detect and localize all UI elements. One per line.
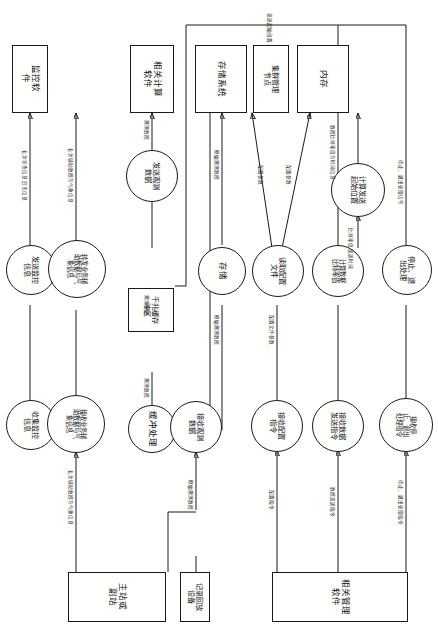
node-label: 相关管理 软件	[330, 579, 350, 615]
process-receive-send-command[interactable]: 接收数据 发送指令	[312, 400, 364, 452]
process-receive-config-command[interactable]: 接收配置 指令	[251, 400, 303, 452]
edge-label-raw-observation-3: 原始观测数据	[188, 480, 193, 510]
edge-label-stop-signal: 停止、退出处理信号	[398, 160, 403, 205]
external-box-monitor-software[interactable]: 监控软件	[12, 45, 48, 113]
node-label: 相关计算 软件	[142, 61, 162, 97]
process-stop-exit[interactable]: 停止、退 出处理	[382, 245, 432, 295]
process-buffer-handling[interactable]: 缓冲处理	[128, 405, 176, 453]
node-label: 主站或 副站	[107, 584, 127, 611]
node-label: 记录回放 设备	[187, 583, 204, 611]
process-receive-observation-data[interactable]: 接收观测 数据	[170, 401, 222, 453]
process-receive-aux-data[interactable]: 接收业务辅 助数据与气 象信息	[47, 395, 105, 453]
edge-label-raw-observation-1: 原始观测数据	[214, 150, 219, 180]
process-send-observation-data[interactable]: 发送观测 数据	[126, 150, 178, 202]
edge-label-send-command: 数据发送指令	[330, 487, 335, 517]
process-receive-stop-command[interactable]: 接收停 止、退出 处理指令	[379, 398, 433, 452]
process-calc-bitrate[interactable]: 计算数据 比特率值	[312, 245, 364, 297]
data-store-ring-buffer[interactable]: 千兆缓存 冲区	[128, 288, 174, 332]
node-label: 计算发送 起始位置	[350, 176, 367, 204]
node-label: 转发业务辅 助数据与气 象信息	[67, 254, 88, 284]
node-label: 发送观测 数据	[144, 162, 161, 190]
edge-label-raw-observation-2: 原始观测数据	[214, 315, 219, 345]
node-label: 内存	[318, 70, 328, 88]
node-label: 存储系统	[216, 61, 226, 97]
edge-label-stop-command: 停止、退出处理指令	[398, 480, 403, 525]
node-label: 接收配置 指令	[269, 412, 286, 440]
edge-label-config-command: 配置指令	[269, 490, 274, 510]
edge-label-observation-data-3: 观测数据	[144, 378, 149, 398]
edge-label-observation-data-2: 观测数据	[144, 295, 149, 315]
edge-label-aux-met-upper: 业务辅助数据与气象信息	[68, 148, 73, 203]
external-box-management-software[interactable]: 相关管理 软件	[272, 572, 408, 622]
edge-label-config-param-2: 配置参数	[286, 165, 291, 185]
node-label: 监控软件	[20, 62, 40, 96]
edge-label-aux-met-lower: 业务辅助数据与气象信息	[68, 470, 73, 525]
edge-label-config-file-param: 配置文件参数	[269, 315, 274, 345]
edge-label-observation-data-1: 观测数据	[144, 120, 149, 140]
edge-label-start-position: 发送起始位置	[267, 13, 272, 43]
external-box-calc-software[interactable]: 相关计算 软件	[130, 45, 174, 113]
external-box-replay-device[interactable]: 记录回放 设备	[180, 572, 210, 622]
node-label: 接收停 止、退出 处理指令	[396, 413, 417, 437]
process-read-config-file[interactable]: 读取配置 文件	[252, 245, 304, 297]
edge-label-config-param-1: 配置参数	[258, 165, 263, 185]
external-box-cluster-node[interactable]: 集群管理 节点	[253, 45, 289, 113]
process-store[interactable]: 存储	[198, 247, 246, 295]
node-label: 存储	[217, 262, 227, 280]
node-label: 计算数据 比特率值	[331, 259, 345, 283]
edge-label-bitrate-value: 数据比特率值与时间信息	[330, 125, 335, 180]
external-box-memory[interactable]: 内存	[297, 45, 349, 113]
node-label: 接收业务辅 助数据与气 象信息	[66, 409, 87, 439]
node-label: 发送监控 信息	[23, 256, 40, 284]
node-label: 停止、退 出处理	[399, 256, 416, 284]
external-box-storage-system[interactable]: 存储系统	[195, 45, 247, 113]
node-label: 接收观测 数据	[188, 413, 205, 441]
node-label: 缓冲处理	[147, 411, 157, 447]
node-label: 读取配置 文件	[270, 257, 287, 285]
external-box-main-station[interactable]: 主站或 副站	[68, 572, 166, 622]
flowchart-canvas: 监控软件 相关计算 软件 存储系统 集群管理 节点 内存 千兆缓存 冲区 发送监…	[0, 0, 438, 629]
edge-label-bitrate-send-time: 比特率值 发送时间	[348, 228, 353, 269]
process-forward-aux-data[interactable]: 转发业务辅 助数据与气 象信息	[48, 240, 106, 298]
node-label: 收集监控 信息	[23, 411, 40, 439]
edge-label-status-log: 业务状态信息 日志信息	[22, 150, 27, 201]
node-label: 接收数据 发送指令	[330, 412, 347, 440]
node-label: 集群管理 节点	[263, 65, 280, 93]
process-calc-start-position[interactable]: 计算发送 起始位置	[331, 163, 385, 217]
